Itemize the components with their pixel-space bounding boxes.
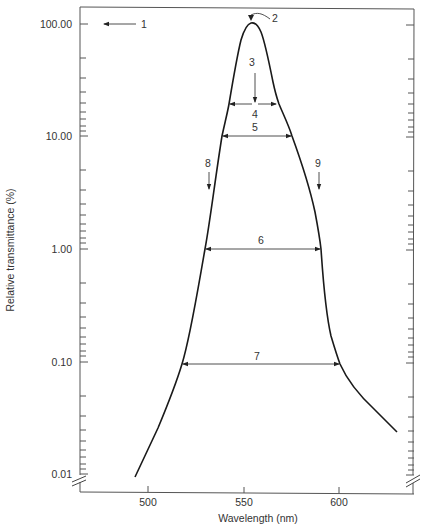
y-axis-label: Relative transmittance (%) <box>4 188 16 311</box>
annotation-7-label: 7 <box>254 350 260 362</box>
x-axis-label: Wavelength (nm) <box>218 512 298 524</box>
transmittance-chart: 100.00 10.00 1.00 0.10 0.01 500 550 600 … <box>0 0 434 528</box>
y-axis-ticks-left <box>80 24 88 474</box>
annotation-9: 9 <box>315 157 321 189</box>
annotation-1: 1 <box>104 18 147 30</box>
annotation-2-label: 2 <box>272 12 278 24</box>
x-axis-ticks <box>148 486 339 493</box>
plot-frame <box>80 7 414 494</box>
annotation-8: 8 <box>205 157 211 189</box>
y-tick-label-0.01: 0.01 <box>52 468 73 480</box>
annotation-5-label: 5 <box>252 121 258 133</box>
annotation-6-label: 6 <box>258 234 264 246</box>
annotation-4: 4 <box>230 104 276 120</box>
transmittance-curve <box>135 23 397 477</box>
y-tick-label-0.1: 0.10 <box>52 356 73 368</box>
annotation-9-label: 9 <box>315 157 321 169</box>
y-tick-label-1: 1.00 <box>52 243 73 255</box>
axis-break-marks <box>72 475 420 487</box>
x-tick-label-550: 550 <box>235 496 253 508</box>
annotation-8-label: 8 <box>205 157 211 169</box>
y-tick-label-100: 100.00 <box>40 18 72 30</box>
annotation-4-label: 4 <box>252 108 258 120</box>
annotation-1-label: 1 <box>141 18 147 30</box>
annotation-5: 5 <box>223 121 291 136</box>
annotation-3-label: 3 <box>249 56 255 68</box>
y-tick-label-10: 10.00 <box>46 130 72 142</box>
annotation-6: 6 <box>206 234 320 249</box>
annotation-3: 3 <box>249 56 255 102</box>
annotation-7: 7 <box>183 350 339 364</box>
x-tick-label-600: 600 <box>330 496 348 508</box>
x-tick-label-500: 500 <box>139 496 157 508</box>
